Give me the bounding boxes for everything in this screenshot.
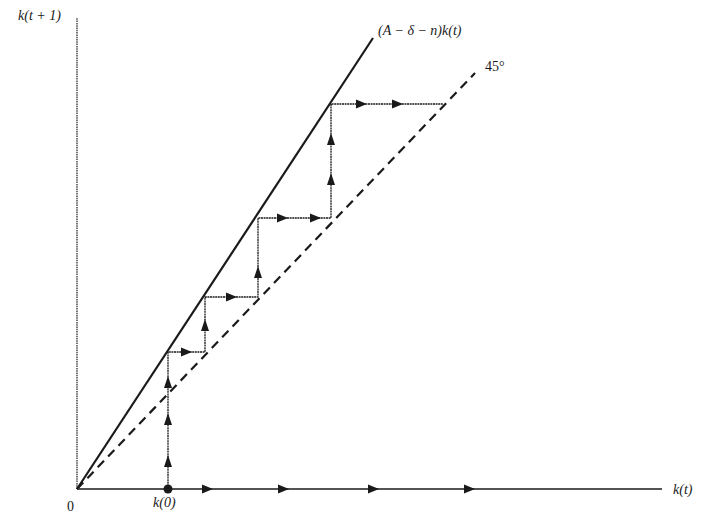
growth-phase-diagram: k(t + 1) k(t) 0 k(0) (A − δ − n)k(t) 45° <box>0 0 717 530</box>
x-axis-label: k(t) <box>673 482 693 498</box>
axes <box>77 18 662 489</box>
staircase-arrow-icon <box>164 455 172 467</box>
diagonal-label: 45° <box>485 59 505 74</box>
x-axis-arrow-icon <box>278 485 289 494</box>
staircase-arrow-icon <box>164 413 172 425</box>
x-axis-arrow-icon <box>368 485 379 494</box>
k0-label: k(0) <box>153 495 176 511</box>
growth-line <box>77 38 373 489</box>
staircase-polyline <box>168 104 443 489</box>
plot-lines <box>77 38 475 489</box>
staircase-arrow-icon <box>327 173 335 185</box>
x-axis-arrow-icon <box>202 485 213 494</box>
staircase-arrow-icon <box>392 100 403 109</box>
k0-point <box>164 485 173 494</box>
staircase-arrow-icon <box>201 319 209 331</box>
staircase-arrow-icon <box>164 376 172 388</box>
x-axis-arrow-icon <box>464 485 475 494</box>
staircase-arrow-icon <box>310 214 321 223</box>
staircase-arrow-icon <box>181 348 192 357</box>
growth-line-label: (A − δ − n)k(t) <box>378 23 462 39</box>
y-axis-label: k(t + 1) <box>18 8 61 24</box>
staircase-path <box>164 104 444 494</box>
diagonal-45-line <box>77 73 475 489</box>
staircase-arrow-icon <box>356 100 367 109</box>
origin-label: 0 <box>67 499 74 514</box>
staircase-arrow-icon <box>327 133 335 145</box>
staircase-arrow-icon <box>226 293 237 302</box>
staircase-arrow-icon <box>277 214 288 223</box>
staircase-arrow-icon <box>254 266 262 278</box>
